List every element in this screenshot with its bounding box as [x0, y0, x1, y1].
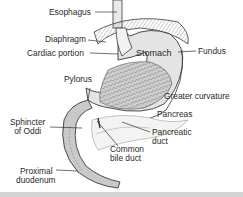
label-proximal-duodenum: Proximal duodenum: [16, 167, 56, 185]
label-pylorus: Pylorus: [64, 75, 92, 84]
label-sphincter-line2: of Oddi: [10, 127, 45, 136]
label-stomach: Stomach: [136, 49, 172, 58]
label-pancreatic-duct: Pancreatic duct: [152, 128, 192, 146]
label-common-bile-duct: Common bile duct: [110, 145, 144, 163]
bottom-border-strip: [0, 192, 243, 197]
label-bile-line2: bile duct: [110, 154, 144, 163]
label-sphincter-of-oddi: Sphincter of Oddi: [10, 118, 45, 136]
label-cardiac-portion: Cardiac portion: [27, 49, 84, 58]
label-pancreatic-line2: duct: [152, 137, 192, 146]
label-duodenum-line2: duodenum: [16, 176, 56, 185]
label-fundus: Fundus: [198, 47, 226, 56]
label-esophagus: Esophagus: [49, 8, 91, 17]
label-greater-curvature: Greater curvature: [164, 92, 230, 101]
label-diaphragm: Diaphragm: [45, 35, 86, 44]
label-pancreas: Pancreas: [157, 110, 192, 119]
